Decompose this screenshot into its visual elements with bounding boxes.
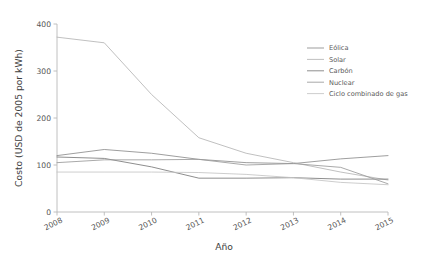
line-chart-figure: 0100200300400 20082009201020112012201320… <box>0 0 425 258</box>
legend-label: Nuclear <box>329 79 355 87</box>
y-tick-label: 200 <box>37 114 52 123</box>
y-tick-label: 100 <box>37 161 52 170</box>
x-tick-label: 2010 <box>137 216 158 233</box>
y-tick-label: 300 <box>37 67 52 76</box>
legend-label: Ciclo combinado de gas <box>329 90 408 98</box>
x-tick-label: 2008 <box>43 216 64 233</box>
legend-label: Solar <box>329 56 346 64</box>
y-tick-label: 400 <box>37 20 52 29</box>
x-tick-label: 2012 <box>232 216 253 233</box>
series-line <box>57 149 388 163</box>
legend-label: Carbón <box>329 67 353 75</box>
legend-label: Eólica <box>329 44 349 52</box>
x-tick-label: 2013 <box>279 216 300 233</box>
x-tick-label: 2011 <box>184 216 205 233</box>
x-tick-label: 2014 <box>326 216 347 233</box>
y-axis-title: Costo (USD de 2005 por kWh) <box>13 49 24 187</box>
x-axis-title: Año <box>215 241 233 252</box>
y-axis: 0100200300400 <box>37 20 58 217</box>
chart-canvas: 0100200300400 20082009201020112012201320… <box>0 0 425 258</box>
y-tick-label: 0 <box>46 208 51 217</box>
chart-legend: EólicaSolarCarbónNuclearCiclo combinado … <box>307 44 408 98</box>
x-tick-label: 2015 <box>374 216 395 233</box>
x-axis: 20082009201020112012201320142015 <box>43 212 395 232</box>
series-line <box>57 157 388 179</box>
x-tick-label: 2009 <box>90 216 111 233</box>
